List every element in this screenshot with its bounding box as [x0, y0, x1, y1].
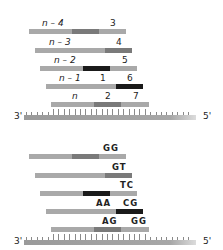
probe-segment-dark [83, 66, 110, 71]
three-prime-label: 3' [14, 111, 22, 121]
probe-segment-mid [72, 29, 99, 34]
probe-segment-mid [94, 227, 121, 232]
cycle-label: n – 4 [42, 18, 64, 28]
primer-bar [40, 191, 137, 196]
primer-bar [40, 66, 137, 71]
panel-bottom: GGGTTCAACGAGGG3'5' [0, 125, 223, 250]
probe-segment-dark [83, 191, 110, 196]
dinucleotide-label: AA [96, 198, 111, 208]
dinucleotide-label: GT [112, 162, 127, 172]
primer-bar [51, 102, 149, 107]
primer-bar [51, 227, 149, 232]
probe-segment-mid [105, 173, 132, 178]
dinucleotide-label: AG [102, 216, 118, 226]
probe-segment-dark [116, 209, 143, 214]
base-pair-ticks [24, 108, 196, 115]
base-pair-ticks [24, 233, 196, 240]
primer-bar [29, 29, 126, 34]
position-label: 1 [100, 73, 106, 83]
primer-bar [46, 209, 143, 214]
position-label: 6 [127, 73, 133, 83]
position-label: 3 [110, 18, 116, 28]
panel-top: n – 43n – 34n – 25n – 116n273'5' [0, 0, 223, 125]
probe-segment-mid [94, 102, 121, 107]
cycle-label: n – 1 [59, 73, 81, 83]
primer-bar [29, 154, 126, 159]
position-label: 7 [133, 91, 139, 101]
three-prime-label: 3' [14, 236, 22, 246]
template-strand [24, 240, 196, 245]
dinucleotide-label: TC [120, 180, 134, 190]
primer-bar [46, 84, 143, 89]
dinucleotide-label: CG [123, 198, 138, 208]
dinucleotide-label: GG [103, 143, 119, 153]
primer-bar [35, 48, 132, 53]
cycle-label: n – 3 [49, 37, 71, 47]
position-label: 5 [122, 55, 128, 65]
probe-segment-dark [116, 84, 143, 89]
cycle-label: n [72, 91, 78, 101]
position-label: 4 [116, 37, 122, 47]
five-prime-label: 5' [203, 236, 211, 246]
template-strand [24, 115, 196, 120]
position-label: 2 [105, 91, 111, 101]
cycle-label: n – 2 [54, 55, 76, 65]
primer-bar [35, 173, 132, 178]
probe-segment-mid [72, 154, 99, 159]
probe-segment-mid [105, 48, 132, 53]
dinucleotide-label: GG [131, 216, 147, 226]
five-prime-label: 5' [203, 111, 211, 121]
